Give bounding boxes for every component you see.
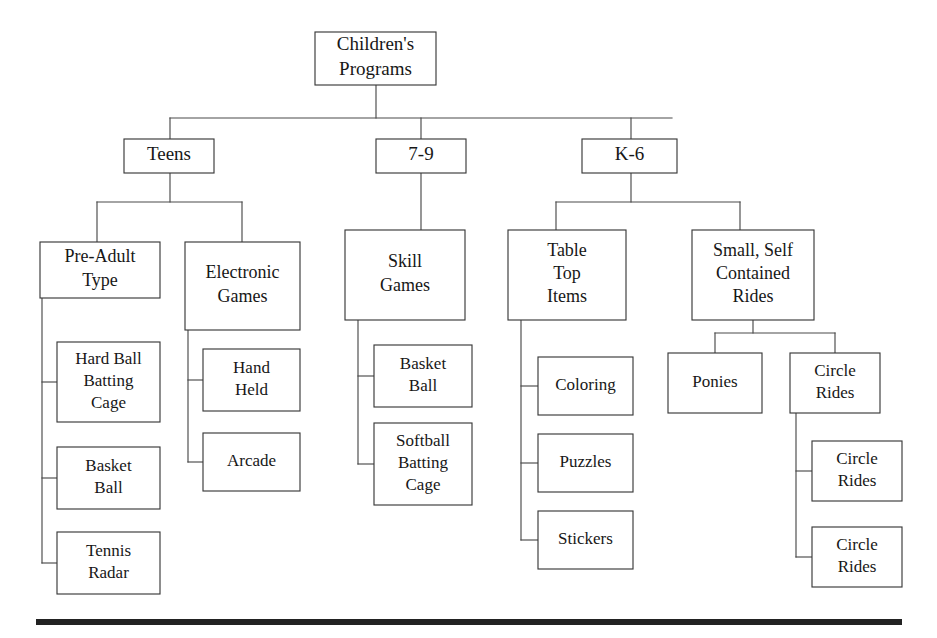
node-circle-rides-child-1[interactable]: CircleRides [812, 441, 902, 501]
node-tennis-radar[interactable]: TennisRadar [57, 532, 160, 594]
node-pre-adult-type[interactable]: Pre-AdultType [40, 242, 160, 298]
node-label-stickers: Stickers [558, 529, 613, 548]
node-label-puzzles: Puzzles [560, 452, 612, 471]
node-electronic-games[interactable]: ElectronicGames [185, 242, 300, 330]
node-small-self-contained-rides[interactable]: Small, SelfContainedRides [692, 230, 814, 320]
node-label-coloring: Coloring [555, 375, 616, 394]
node-puzzles[interactable]: Puzzles [538, 434, 633, 492]
node-root[interactable]: Children'sPrograms [315, 32, 436, 85]
node-skill-games[interactable]: SkillGames [345, 230, 465, 320]
node-basket-ball-teens[interactable]: BasketBall [57, 447, 160, 509]
node-hard-ball-batting-cage[interactable]: Hard BallBattingCage [57, 342, 160, 422]
node-label-ponies: Ponies [692, 372, 737, 391]
node-circle-rides-parent[interactable]: CircleRides [790, 353, 880, 413]
node-label-k-6: K-6 [615, 143, 645, 164]
node-stickers[interactable]: Stickers [538, 511, 633, 569]
node-k-6[interactable]: K-6 [582, 139, 677, 173]
node-table-top-items[interactable]: TableTopItems [508, 230, 626, 320]
node-basket-ball-skill[interactable]: BasketBall [374, 345, 472, 407]
org-chart-svg: Children'sProgramsTeens7-9K-6Pre-AdultTy… [0, 0, 937, 638]
bottom-divider-rule [36, 619, 902, 625]
node-circle-rides-child-2[interactable]: CircleRides [812, 527, 902, 587]
node-layer: Children'sProgramsTeens7-9K-6Pre-AdultTy… [40, 32, 902, 594]
org-chart-container: Children'sProgramsTeens7-9K-6Pre-AdultTy… [0, 0, 937, 638]
node-arcade[interactable]: Arcade [203, 433, 300, 491]
node-teens[interactable]: Teens [124, 139, 214, 173]
node-ponies[interactable]: Ponies [668, 353, 762, 413]
node-label-arcade: Arcade [227, 451, 276, 470]
node-label-teens: Teens [147, 143, 191, 164]
node-label-seven-nine: 7-9 [408, 143, 433, 164]
node-softball-batting-cage[interactable]: SoftballBattingCage [374, 423, 472, 505]
node-hand-held[interactable]: HandHeld [203, 349, 300, 411]
node-coloring[interactable]: Coloring [538, 357, 633, 415]
node-seven-nine[interactable]: 7-9 [376, 139, 466, 173]
